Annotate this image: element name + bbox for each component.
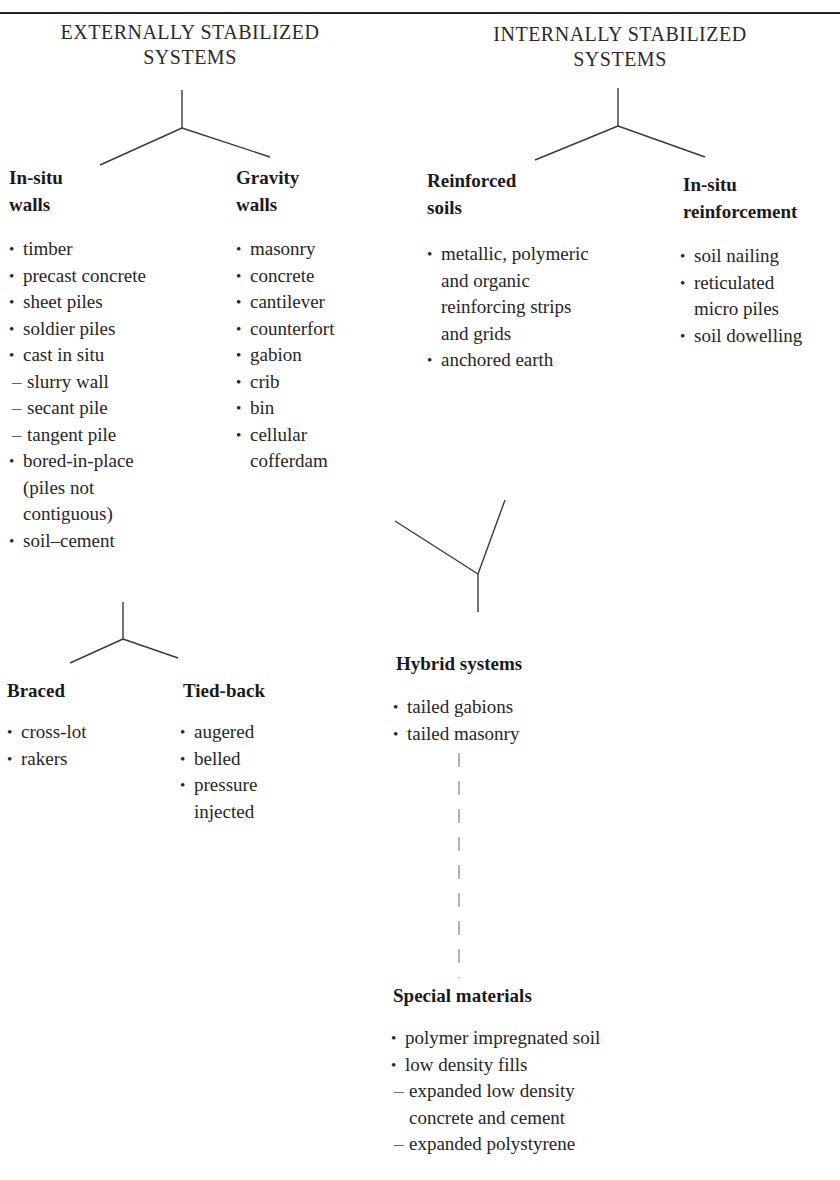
title-line-2: walls xyxy=(236,191,299,218)
list-item: cast in situ xyxy=(9,342,146,369)
list-item: bin xyxy=(236,395,334,422)
title-line-2: walls xyxy=(9,191,63,218)
title-line-1: In-situ xyxy=(683,171,797,198)
title-line-2: soils xyxy=(427,194,516,221)
list-item: counterfort xyxy=(236,316,334,343)
sub-list-item: secant pile xyxy=(9,395,146,422)
list-item: contiguous) xyxy=(9,501,146,528)
in-situ-reinforcement-title: In-situ reinforcement xyxy=(683,171,797,225)
heading-line-1: INTERNALLY STABILIZED xyxy=(450,22,790,47)
tied-back-list: augeredbelledpressureinjected xyxy=(180,719,257,825)
reinforced-soils-title: Reinforced soils xyxy=(427,167,516,221)
in-situ-walls-title: In-situ walls xyxy=(9,164,63,218)
in-situ-reinforcement-list: soil nailingreticulatedmicro pilessoil d… xyxy=(680,243,802,349)
sub-list-item: expanded polystyrene xyxy=(391,1131,600,1158)
braced-list: cross-lotrakers xyxy=(7,719,86,772)
list-item: concrete xyxy=(236,263,334,290)
list-item: injected xyxy=(180,799,257,826)
list-item: tailed gabions xyxy=(393,694,519,721)
title-line-1: Gravity xyxy=(236,164,299,191)
list-item: reticulated xyxy=(680,270,802,297)
list-item: crib xyxy=(236,369,334,396)
hybrid-systems-title: Hybrid systems xyxy=(396,650,522,677)
in-situ-walls-list: timberprecast concretesheet pilessoldier… xyxy=(9,236,146,554)
special-materials-list: polymer impregnated soillow density fill… xyxy=(391,1025,600,1158)
list-item: bored-in-place xyxy=(9,448,146,475)
list-item: metallic, polymeric xyxy=(427,241,589,268)
sub-list-item: concrete and cement xyxy=(391,1105,600,1132)
list-item: soldier piles xyxy=(9,316,146,343)
sub-list-item: slurry wall xyxy=(9,369,146,396)
list-item: sheet piles xyxy=(9,289,146,316)
list-item: reinforcing strips xyxy=(427,294,589,321)
list-item: belled xyxy=(180,746,257,773)
list-item: polymer impregnated soil xyxy=(391,1025,600,1052)
title-line-1: In-situ xyxy=(9,164,63,191)
braced-title: Braced xyxy=(7,677,65,704)
list-item: rakers xyxy=(7,746,86,773)
hybrid-systems-list: tailed gabionstailed masonry xyxy=(393,694,519,747)
list-item: soil dowelling xyxy=(680,323,802,350)
gravity-walls-title: Gravity walls xyxy=(236,164,299,218)
list-item: tailed masonry xyxy=(393,721,519,748)
list-item: gabion xyxy=(236,342,334,369)
internally-stabilized-heading: INTERNALLY STABILIZED SYSTEMS xyxy=(450,22,790,72)
heading-line-1: EXTERNALLY STABILIZED xyxy=(20,20,360,45)
heading-line-2: SYSTEMS xyxy=(20,45,360,70)
tied-back-title: Tied-back xyxy=(183,677,265,704)
reinforced-soils-list: metallic, polymericand organicreinforcin… xyxy=(427,241,589,374)
list-item: cross-lot xyxy=(7,719,86,746)
list-item: anchored earth xyxy=(427,347,589,374)
list-item: timber xyxy=(9,236,146,263)
list-item: low density fills xyxy=(391,1052,600,1079)
title-line-1: Reinforced xyxy=(427,167,516,194)
list-item: soil nailing xyxy=(680,243,802,270)
title-line-2: reinforcement xyxy=(683,198,797,225)
special-materials-title: Special materials xyxy=(393,982,532,1009)
list-item: cantilever xyxy=(236,289,334,316)
heading-line-2: SYSTEMS xyxy=(450,47,790,72)
sub-list-item: expanded low density xyxy=(391,1078,600,1105)
list-item: precast concrete xyxy=(9,263,146,290)
list-item: and grids xyxy=(427,321,589,348)
list-item: augered xyxy=(180,719,257,746)
list-item: masonry xyxy=(236,236,334,263)
list-item: (piles not xyxy=(9,475,146,502)
list-item: cellular xyxy=(236,422,334,449)
list-item: cofferdam xyxy=(236,448,334,475)
sub-list-item: tangent pile xyxy=(9,422,146,449)
list-item: and organic xyxy=(427,268,589,295)
gravity-walls-list: masonryconcretecantilevercounterfortgabi… xyxy=(236,236,334,475)
externally-stabilized-heading: EXTERNALLY STABILIZED SYSTEMS xyxy=(20,20,360,70)
list-item: soil–cement xyxy=(9,528,146,555)
list-item: micro piles xyxy=(680,296,802,323)
list-item: pressure xyxy=(180,772,257,799)
